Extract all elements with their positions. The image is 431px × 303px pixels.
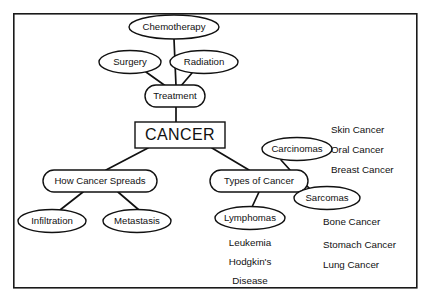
edge-cancer-to-types-of-cancer [212, 148, 249, 170]
node-cancer[interactable]: CANCER [135, 122, 225, 148]
node-how-cancer-spreads[interactable]: How Cancer Spreads [43, 170, 157, 192]
node-types-of-cancer[interactable]: Types of Cancer [210, 170, 308, 192]
leaf-label-lymphoma-examples-0: Leukemia [229, 237, 272, 248]
node-carcinomas[interactable]: Carcinomas [262, 138, 332, 161]
leaf-label-carcinoma-examples-0: Skin Cancer [331, 124, 385, 135]
edge-types-of-cancer-to-carcinomas [281, 160, 290, 170]
edge-cancer-to-how-cancer-spreads [106, 148, 148, 170]
leaf-label-lymphoma-examples-2: Disease [232, 275, 268, 286]
node-infiltration[interactable]: Infiltration [18, 210, 86, 233]
node-label-treatment: Treatment [153, 90, 197, 101]
node-label-metastasis: Metastasis [114, 215, 160, 226]
leaf-label-sarcoma-examples-2: Lung Cancer [323, 259, 380, 270]
leaf-label-carcinoma-examples-1: Oral Cancer [331, 144, 385, 155]
node-chemotherapy[interactable]: Chemotherapy [129, 15, 219, 39]
leaf-label-sarcoma-examples-0: Bone Cancer [323, 216, 381, 227]
node-label-infiltration: Infiltration [31, 215, 73, 226]
node-label-surgery: Surgery [113, 56, 147, 67]
edge-how-cancer-spreads-to-infiltration [60, 192, 83, 210]
text-group-carcinoma-examples: Skin CancerOral CancerBreast Cancer [331, 124, 394, 175]
node-label-lymphomas: Lymphomas [224, 212, 276, 223]
node-sarcomas[interactable]: Sarcomas [294, 187, 360, 210]
node-radiation[interactable]: Radiation [170, 51, 238, 74]
leaf-label-carcinoma-examples-2: Breast Cancer [331, 164, 394, 175]
node-label-chemotherapy: Chemotherapy [143, 21, 206, 32]
node-label-how-cancer-spreads: How Cancer Spreads [54, 175, 145, 186]
node-label-types-of-cancer: Types of Cancer [224, 175, 295, 186]
node-label-cancer: CANCER [145, 126, 215, 143]
text-group-lymphoma-examples: LeukemiaHodgkin'sDisease [229, 237, 272, 286]
text-group-sarcoma-examples: Bone CancerStomach CancerLung Cancer [323, 216, 397, 270]
concept-map-page: ChemotherapySurgeryRadiationTreatmentCAN… [0, 0, 431, 303]
node-label-sarcomas: Sarcomas [305, 192, 348, 203]
node-label-carcinomas: Carcinomas [271, 143, 322, 154]
cancer-concept-map: ChemotherapySurgeryRadiationTreatmentCAN… [0, 0, 431, 303]
edge-how-cancer-spreads-to-metastasis [118, 192, 139, 210]
leaf-label-lymphoma-examples-1: Hodgkin's [229, 256, 272, 267]
edge-types-of-cancer-to-lymphomas [252, 192, 259, 207]
node-lymphomas[interactable]: Lymphomas [215, 207, 285, 230]
node-layer: ChemotherapySurgeryRadiationTreatmentCAN… [18, 15, 360, 233]
node-surgery[interactable]: Surgery [99, 51, 161, 74]
leaf-label-sarcoma-examples-1: Stomach Cancer [323, 239, 397, 250]
node-label-radiation: Radiation [184, 56, 225, 67]
node-metastasis[interactable]: Metastasis [103, 210, 171, 233]
node-treatment[interactable]: Treatment [145, 85, 205, 107]
